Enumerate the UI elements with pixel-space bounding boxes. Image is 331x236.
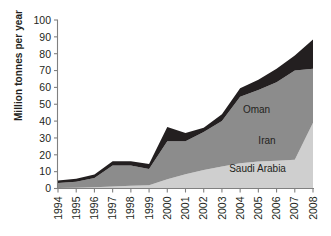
y-tick-label: 60 [39,81,51,93]
y-tick-label: 40 [39,115,51,127]
x-tick-label: 2007 [288,196,300,220]
x-tick-label: 2002 [197,196,209,220]
stacked-area-chart: 0102030405060708090100 19941995199619971… [0,0,331,236]
y-tick-group: 0102030405060708090100 [33,14,58,195]
y-tick-label: 0 [45,182,51,194]
chart-figure: Million tonnes per year 0102030405060708… [0,0,331,236]
x-tick-label: 1995 [70,196,82,220]
x-tick-label: 2004 [234,196,246,220]
series-label-oman: Oman [243,104,270,115]
x-tick-label: 2001 [179,196,191,220]
series-label-saudi-arabia: Saudi Arabia [229,163,286,174]
x-tick-label: 2003 [216,196,228,220]
x-tick-group: 1994199519961997199819992000200120022003… [52,189,319,220]
y-tick-label: 80 [39,48,51,60]
x-tick-label: 2006 [270,196,282,220]
x-tick-label: 2008 [307,196,319,220]
y-tick-label: 10 [39,165,51,177]
x-tick-label: 1999 [143,196,155,220]
series-label-iran: Iran [258,135,275,146]
y-tick-label: 90 [39,31,51,43]
x-tick-label: 2005 [252,196,264,220]
y-tick-label: 50 [39,98,51,110]
y-tick-label: 100 [33,14,51,26]
x-tick-label: 1997 [106,196,118,220]
x-tick-label: 2000 [161,196,173,220]
y-tick-label: 30 [39,132,51,144]
y-tick-label: 70 [39,64,51,76]
x-tick-label: 1998 [124,196,136,220]
x-tick-label: 1996 [88,196,100,220]
x-tick-label: 1994 [52,196,64,220]
y-tick-label: 20 [39,149,51,161]
